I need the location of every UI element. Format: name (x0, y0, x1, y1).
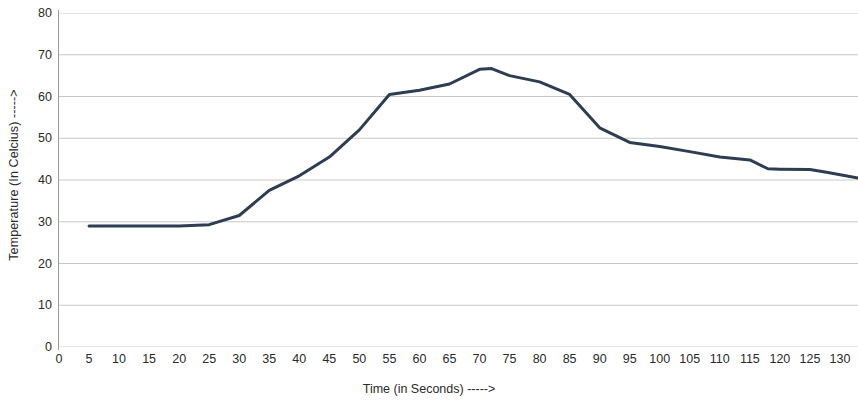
y-tick-label: 60 (38, 90, 52, 104)
x-tick-label: 30 (232, 352, 246, 366)
x-tick-label: 20 (172, 352, 186, 366)
y-tick-label: 30 (38, 215, 52, 229)
x-tick-label: 110 (710, 352, 730, 366)
x-tick-label: 45 (322, 352, 336, 366)
x-tick-label: 60 (412, 352, 426, 366)
x-tick-label: 10 (112, 352, 126, 366)
x-tick-label: 80 (533, 352, 547, 366)
x-axis-tick-labels: 0510152025303540455055606570758085909510… (0, 352, 858, 374)
x-tick-label: 40 (292, 352, 306, 366)
gridlines (59, 13, 858, 347)
data-line (89, 69, 858, 226)
y-axis-tick-labels: 01020304050607080 (28, 0, 56, 360)
y-tick-label: 10 (38, 298, 52, 312)
y-tick-label: 40 (38, 173, 52, 187)
y-tick-label: 50 (38, 131, 52, 145)
x-tick-label: 115 (740, 352, 760, 366)
x-tick-label: 65 (443, 352, 457, 366)
plot-area (59, 13, 858, 347)
x-tick-label: 120 (769, 352, 790, 366)
plot-svg (59, 13, 858, 347)
x-tick-label: 55 (382, 352, 396, 366)
x-tick-label: 5 (86, 352, 93, 366)
x-tick-label: 75 (503, 352, 517, 366)
y-tick-label: 20 (38, 257, 52, 271)
x-tick-label: 35 (262, 352, 276, 366)
y-axis-title: Temperature (In Celcius) -----> (0, 0, 28, 350)
x-tick-label: 85 (563, 352, 577, 366)
y-tick-label: 70 (38, 48, 52, 62)
y-tick-label: 80 (38, 6, 52, 20)
x-tick-label: 70 (473, 352, 487, 366)
x-tick-label: 90 (593, 352, 607, 366)
x-tick-label: 25 (202, 352, 216, 366)
x-tick-label: 125 (800, 352, 821, 366)
x-tick-label: 50 (352, 352, 366, 366)
x-tick-label: 95 (623, 352, 637, 366)
x-tick-label: 130 (830, 352, 851, 366)
y-axis-title-label: Temperature (In Celcius) -----> (7, 89, 21, 261)
x-tick-label: 0 (56, 352, 63, 366)
x-axis-title: Time (in Seconds) -----> (0, 382, 858, 396)
x-tick-label: 105 (679, 352, 700, 366)
data-series-group (89, 69, 858, 226)
temperature-vs-time-line-chart: Temperature (In Celcius) -----> 01020304… (0, 0, 858, 405)
x-tick-label: 100 (649, 352, 670, 366)
x-tick-label: 15 (142, 352, 156, 366)
